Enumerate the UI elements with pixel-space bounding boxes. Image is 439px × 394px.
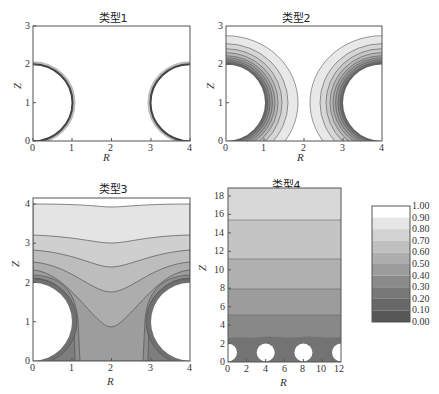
colorbar-label: 0.60 bbox=[412, 247, 430, 257]
colorbar-label: 0.10 bbox=[412, 305, 430, 315]
colorbar bbox=[0, 0, 439, 394]
colorbar-label: 0.40 bbox=[412, 271, 430, 281]
colorbar-label: 0.00 bbox=[412, 317, 430, 327]
colorbar-label: 0.90 bbox=[412, 213, 430, 223]
colorbar-label: 0.30 bbox=[412, 282, 430, 292]
colorbar-label: 0.20 bbox=[412, 294, 430, 304]
colorbar-label: 1.00 bbox=[412, 201, 430, 211]
colorbar-label: 0.70 bbox=[412, 236, 430, 246]
colorbar-label: 0.80 bbox=[412, 224, 430, 234]
colorbar-label: 0.50 bbox=[412, 259, 430, 269]
